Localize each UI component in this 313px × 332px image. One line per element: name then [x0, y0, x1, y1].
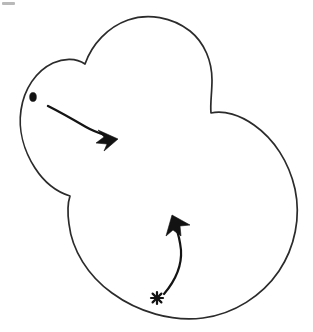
asterisk-marker [151, 292, 163, 304]
figure-root: Hand-drawn blob outline with two curved … [0, 0, 313, 332]
blob-outline [20, 17, 297, 319]
sketch-canvas [0, 0, 313, 332]
scan-smudge [2, 2, 15, 5]
dot-marker [30, 92, 37, 101]
